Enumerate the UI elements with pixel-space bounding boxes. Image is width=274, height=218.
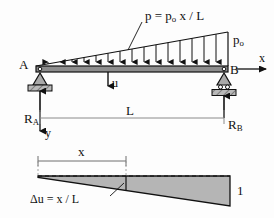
axis-y-label: y [45,127,51,139]
support-right-label: B [230,63,239,76]
reaction-right-label: RB [228,118,243,131]
span-label: L [126,104,134,117]
shape-function-label: Δu = x / L [30,193,79,205]
load-peak-label: po [233,33,244,46]
x-distance-label: x [78,145,85,158]
x-dimension [38,156,126,177]
deflection-label: u [112,77,118,89]
support-left-label: A [19,58,28,71]
axis-x-label: x [259,52,265,64]
beam [36,66,228,72]
load-formula-leader [128,22,142,50]
beam-load-diagram: p = po x / L po A B u x y RA RB L x Δu =… [0,0,274,218]
unit-height-label: 1 [237,184,244,197]
load-formula-label: p = po x / L [145,9,204,22]
reaction-left-label: RA [24,112,39,125]
